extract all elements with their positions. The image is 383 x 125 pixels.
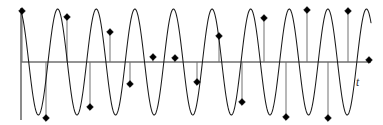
sine-wave-plot: t <box>0 0 383 125</box>
sampled-sine-figure: t <box>0 0 383 125</box>
